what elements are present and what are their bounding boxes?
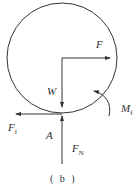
caption: ( b ): [50, 173, 77, 184]
label-a: A: [46, 130, 53, 141]
label-f: F: [96, 39, 103, 50]
label-mf: Mf: [121, 103, 133, 117]
label-ff: Ff: [8, 122, 17, 136]
free-body-diagram: [0, 0, 139, 189]
label-fn: FN: [72, 143, 84, 157]
label-w: W: [47, 86, 56, 97]
moment-arrow: [94, 91, 110, 116]
